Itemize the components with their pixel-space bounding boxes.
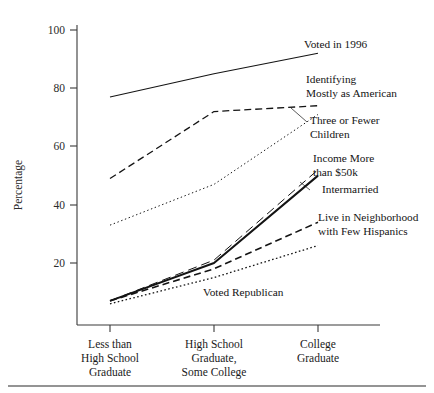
- series-line-three-or-fewer-children: [110, 114, 318, 225]
- series-line-intermarried: [110, 176, 318, 301]
- x-cat1-line3: Graduate: [89, 366, 131, 378]
- leader-children: [291, 108, 307, 122]
- x-category-label-1: Less than High School Graduate: [81, 338, 139, 378]
- annotation-voted-republican: Voted Republican: [203, 286, 284, 298]
- series-line-identifying-mostly-as-american: [110, 106, 318, 179]
- x-cat1-line1: Less than: [88, 338, 132, 350]
- chart-container: 100 80 60 40 20 Percentage Less than Hig…: [0, 0, 434, 393]
- annotation-identifying-line2: Mostly as American: [306, 87, 397, 99]
- y-tick-label-20: 20: [54, 257, 66, 269]
- line-chart-figure: 100 80 60 40 20 Percentage Less than Hig…: [0, 0, 434, 393]
- annotation-children-line1: Three or Fewer: [310, 114, 380, 126]
- x-cat3-line1: College: [300, 338, 336, 351]
- x-cat2-line3: Some College: [182, 366, 247, 379]
- annotation-income-line1: Income More: [313, 152, 374, 164]
- x-cat2-line2: Graduate,: [191, 352, 236, 365]
- x-category-label-2: High School Graduate, Some College: [182, 338, 247, 379]
- annotation-intermarried: Intermarried: [322, 183, 379, 195]
- y-tick-label-60: 60: [54, 140, 66, 152]
- x-category-label-3: College Graduate: [297, 338, 339, 364]
- y-axis-title: Percentage: [12, 160, 25, 210]
- x-cat3-line2: Graduate: [297, 352, 339, 364]
- annotation-children-line2: Children: [310, 128, 350, 140]
- annotation-identifying-line1: Identifying: [306, 73, 357, 85]
- y-tick-label-80: 80: [54, 82, 66, 94]
- x-cat1-line2: High School: [81, 352, 139, 365]
- annotation-hispanics-line1: Live in Neighborhood: [318, 211, 419, 223]
- annotation-voted-1996: Voted in 1996: [304, 38, 368, 50]
- x-cat2-line1: High School: [185, 338, 243, 351]
- y-tick-label-100: 100: [48, 24, 66, 36]
- y-tick-label-40: 40: [54, 199, 66, 211]
- annotation-income-line2: than $50k: [313, 166, 358, 178]
- series-line-voted-in-1996: [110, 53, 318, 97]
- annotation-hispanics-line2: with Few Hispanics: [318, 225, 408, 237]
- series-layer: [110, 53, 318, 303]
